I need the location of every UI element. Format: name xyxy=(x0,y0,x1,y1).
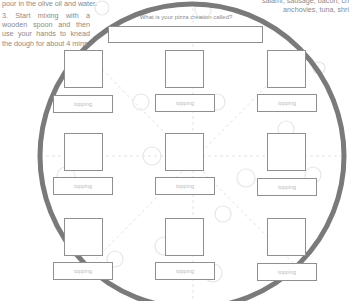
instruction-step-3: 3. Start mixing with a wooden spoon and … xyxy=(2,11,90,48)
topping-label-field[interactable]: topping xyxy=(257,178,317,196)
topping-label-field[interactable]: topping xyxy=(257,263,317,281)
topping-drawing-box[interactable] xyxy=(165,50,204,88)
pizza-name-field[interactable] xyxy=(108,26,263,43)
instruction-text-top: pour in the olive oil and water. xyxy=(2,0,122,8)
topping-drawing-box[interactable] xyxy=(165,133,204,171)
topping-drawing-box[interactable] xyxy=(64,218,103,256)
topping-drawing-box[interactable] xyxy=(64,50,103,88)
topping-label-field[interactable]: topping xyxy=(155,262,215,280)
topping-label-field[interactable]: topping xyxy=(53,262,113,280)
toppings-line-2: anchovies, tuna, shri xyxy=(262,5,349,14)
topping-label-field[interactable]: topping xyxy=(53,177,113,195)
topping-label-field[interactable]: topping xyxy=(257,94,317,112)
topping-label-field[interactable]: topping xyxy=(155,177,215,195)
topping-drawing-box[interactable] xyxy=(267,50,306,88)
topping-drawing-box[interactable] xyxy=(165,218,204,256)
topping-drawing-box[interactable] xyxy=(267,133,306,171)
toppings-list-text: salami, sausage, bacon, ch anchovies, tu… xyxy=(262,0,349,14)
pizza-name-prompt: What is your pizza creation called? xyxy=(108,14,264,20)
topping-drawing-box[interactable] xyxy=(267,218,306,256)
topping-label-field[interactable]: topping xyxy=(53,95,113,113)
topping-label-field[interactable]: topping xyxy=(155,94,215,112)
topping-drawing-box[interactable] xyxy=(64,133,103,171)
